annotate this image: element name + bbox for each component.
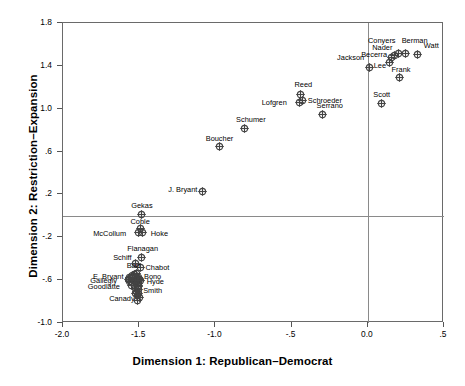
x-axis-tick-label: -1.5 [118,329,158,339]
x-axis-tick-label: 0.0 [347,329,387,339]
x-axis-tick [138,322,139,327]
x-axis-tick-label: -1.0 [194,329,234,339]
data-point-label: Frank [392,66,411,74]
data-point-label: Scott [373,91,390,99]
x-axis-tick [214,322,215,327]
x-axis-tick [291,322,292,327]
data-point-label: Lofgren [262,99,287,107]
x-axis-tick-label: .5 [423,329,463,339]
data-point-label: McCollum [93,230,126,238]
scatter-plot-figure: Dimension 2: Restriction–Expansion Dimen… [0,0,465,386]
y-axis-tick [57,108,62,109]
y-axis-tick [57,322,62,323]
y-axis-tick [57,236,62,237]
data-point-label: Watt [424,42,439,50]
reference-line-vertical [368,23,369,323]
data-point-label: Schumer [236,116,266,124]
data-point-label: Hyde [147,278,164,286]
data-point-label: Reed [295,81,313,89]
data-point-label: Boucher [206,135,234,143]
y-axis-tick-label: 1.0 [18,103,52,113]
data-point-label: Smith [143,287,162,295]
y-axis-tick-label: -1.0 [18,317,52,327]
data-point-label: Gekas [131,202,152,210]
x-axis-tick [443,322,444,327]
data-point-label: Serrano [317,102,343,110]
x-axis-tick [62,322,63,327]
y-axis-tick-label: -.6 [18,274,52,284]
reference-line-horizontal [63,216,444,217]
x-axis-title: Dimension 1: Republican–Democrat [0,355,465,367]
y-axis-tick-label: -.2 [18,231,52,241]
data-point-label: Jackson [337,54,364,62]
y-axis-tick-label: 1.8 [18,17,52,27]
y-axis-tick [57,279,62,280]
data-point-label: J. Bryant [168,186,197,194]
y-axis-tick-label: .6 [18,146,52,156]
data-point-label: Coble [130,218,149,226]
data-point-label: Goodlatte [88,283,120,291]
x-axis-tick-label: -2.0 [42,329,82,339]
y-axis-tick [57,22,62,23]
data-point-label: Becerra [361,51,387,59]
x-axis-tick [367,322,368,327]
data-point-label: Flanagan [127,245,158,253]
data-point-label: Barr [127,262,141,270]
x-axis-tick-label: -.5 [271,329,311,339]
data-point-label: Hoke [151,230,168,238]
data-point-label: Lee [374,62,386,70]
y-axis-tick [57,65,62,66]
y-axis-tick [57,193,62,194]
y-axis-tick-label: .2 [18,188,52,198]
y-axis-tick [57,151,62,152]
y-axis-tick-label: 1.4 [18,60,52,70]
data-point-label: Canady [109,295,134,303]
y-axis-title: Dimension 2: Restriction–Expansion [27,46,39,306]
